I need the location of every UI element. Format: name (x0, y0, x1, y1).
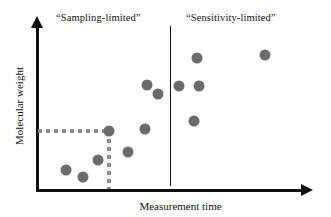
data-point (122, 147, 133, 158)
threshold-horizontal (38, 129, 109, 133)
regime-divider-line (170, 26, 172, 186)
data-point (93, 155, 104, 166)
data-point (142, 79, 153, 90)
y-axis-label: Molecular weight (13, 46, 25, 166)
x-axis-arrow-icon (301, 184, 313, 196)
data-point (60, 165, 71, 176)
x-axis-line (36, 189, 304, 192)
region-label-sensitivity-limited: “Sensitivity-limited” (186, 12, 276, 23)
data-point (140, 124, 151, 135)
scatter-chart-figure: “Sampling-limited” “Sensitivity-limited”… (0, 0, 331, 217)
data-point (259, 49, 270, 60)
data-point (77, 172, 88, 183)
data-point (194, 80, 205, 91)
y-axis-arrow-icon (31, 16, 43, 28)
data-point (173, 80, 184, 91)
data-point (189, 116, 200, 127)
threshold-vertical (107, 131, 111, 189)
data-point (192, 52, 203, 63)
data-point (153, 88, 164, 99)
y-axis-line (36, 26, 39, 191)
data-point (103, 125, 114, 136)
region-label-sampling-limited: “Sampling-limited” (56, 12, 141, 23)
x-axis-label: Measurement time (0, 200, 331, 212)
